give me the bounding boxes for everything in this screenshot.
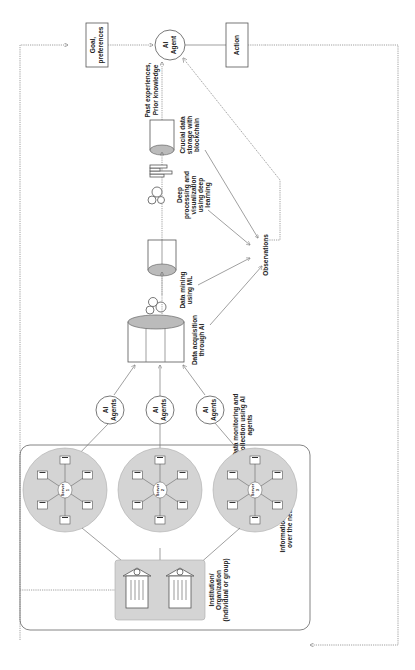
computer-icon	[273, 471, 283, 479]
computer-icon	[132, 501, 142, 509]
computer-icon	[132, 471, 142, 479]
server-cluster-3: Server3	[213, 448, 297, 532]
action-label: Action	[233, 35, 240, 55]
observations-label: Observations	[262, 234, 269, 276]
computer-icon	[37, 501, 47, 509]
ai-agents-label: AI	[152, 407, 159, 414]
computer-icon	[60, 516, 70, 524]
goal-box: Goal, preferences	[86, 23, 108, 67]
ai-agents-label: Agents	[160, 399, 168, 421]
ai-agent-node: AI Agent	[155, 30, 185, 60]
computer-icon	[83, 501, 93, 509]
institution-label: Institution/	[208, 573, 215, 606]
ai-agent-label: AI	[162, 42, 169, 49]
ai-agents-node-3: AI Agents	[183, 365, 224, 424]
deep-label-3: visualization	[190, 175, 197, 214]
acquisition-label-2: through AI	[198, 324, 206, 357]
computer-icon	[60, 456, 70, 464]
computer-icon	[155, 456, 165, 464]
computer-icon	[250, 516, 260, 524]
data-mining-db-icon	[148, 240, 176, 276]
monitoring-label-3: agents	[246, 414, 254, 435]
computer-icon	[155, 516, 165, 524]
computer-icon	[227, 501, 237, 509]
action-box: Action	[226, 23, 248, 67]
mining-label-2: using ML	[186, 276, 194, 305]
ai-agents-node-2: AI Agents	[146, 365, 174, 424]
computer-icon	[178, 501, 188, 509]
past-experiences-label: Past experiences,	[144, 62, 152, 117]
bar-chart-icon	[150, 165, 172, 177]
institution-box	[115, 560, 205, 620]
computer-icon	[273, 501, 283, 509]
institution-label-3: (individual or group)	[222, 558, 230, 621]
data-acquisition-db-icon	[128, 315, 184, 362]
goal-label: Goal,	[89, 37, 97, 53]
computer-icon	[227, 471, 237, 479]
building-icon	[123, 568, 151, 608]
ai-agent-data-flow-diagram: Goal, preferences AI Agent Action Past e…	[0, 0, 415, 670]
blockchain-storage-icon	[150, 120, 174, 155]
building-icon	[166, 568, 194, 608]
server-cluster-1: Server1	[23, 448, 107, 532]
ai-agent-label-2: Agent	[170, 35, 178, 54]
crucial-label-3: blockchain	[193, 118, 200, 152]
ai-agents-label: AI	[202, 407, 209, 414]
deep-label-5: learning	[204, 182, 212, 207]
ml-gears-icon	[146, 298, 166, 315]
past-experiences-label-2: Prior knowledge	[152, 64, 160, 115]
server-cluster-2: Server2	[118, 448, 202, 532]
ai-agents-label: AI	[102, 407, 109, 414]
computer-icon	[83, 471, 93, 479]
ai-agents-label: Agents	[110, 399, 118, 421]
ai-agents-label: Agents	[210, 399, 218, 421]
goal-label-2: preferences	[97, 26, 105, 63]
computer-icon	[250, 456, 260, 464]
computer-icon	[37, 471, 47, 479]
ai-agents-node-1: AI Agents	[96, 365, 135, 424]
computer-icon	[178, 471, 188, 479]
crucial-label: Crucial data	[179, 116, 186, 154]
